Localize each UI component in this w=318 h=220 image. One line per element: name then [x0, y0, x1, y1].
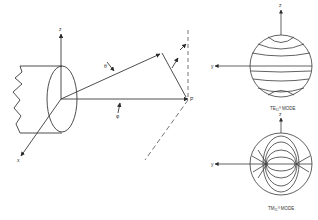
- r-vector: [61, 54, 160, 99]
- point-label: P: [190, 96, 194, 102]
- coordinate-figure: [13, 30, 188, 160]
- projection-line: [162, 53, 186, 97]
- phi-arrow: [118, 103, 120, 113]
- unit-vector-arrow-2: [180, 44, 186, 50]
- tm-mode-figure: [215, 118, 312, 195]
- te-mode-label: TE₁₁⁰ MODE: [270, 106, 296, 111]
- theta-arrow: [107, 62, 114, 71]
- te-z-label: z: [279, 2, 282, 8]
- unit-vector-arrow-1: [172, 58, 178, 68]
- z-label: z: [59, 26, 62, 32]
- x-label: x: [17, 157, 20, 163]
- te-y-label: y: [211, 63, 214, 69]
- diagonal-dashed: [145, 100, 188, 160]
- diagram-svg: z x θ φ P z y TE₁₁⁰ MODE z y TM₁₁: [0, 0, 318, 220]
- tm-mode-label: TM₁₁⁰ MODE: [268, 206, 294, 211]
- phi-label: φ: [116, 113, 120, 119]
- tm-z-label: z: [279, 111, 282, 117]
- te-mode-figure: [215, 10, 312, 97]
- waveguide-break-line: [13, 66, 22, 133]
- x-axis: [21, 99, 61, 156]
- tm-y-label: y: [211, 161, 214, 167]
- theta-label: θ: [104, 63, 107, 69]
- diagram-canvas: z x θ φ P z y TE₁₁⁰ MODE z y TM₁₁: [0, 0, 318, 220]
